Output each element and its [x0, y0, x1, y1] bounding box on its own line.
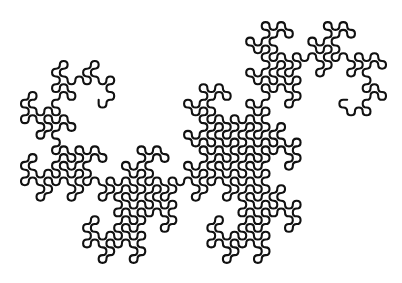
fractal-canvas: [0, 0, 402, 283]
dragon-curve-figure: [0, 0, 402, 283]
